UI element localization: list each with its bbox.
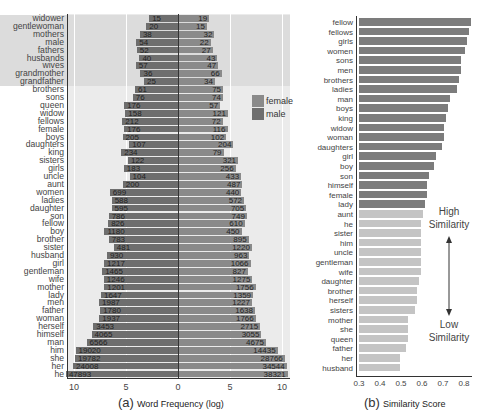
- similarity-bar: [359, 335, 408, 343]
- x-tick-label: 10: [272, 382, 292, 392]
- similarity-bar: [359, 76, 459, 84]
- similarity-bar: [359, 85, 457, 93]
- x-axis-title: (b)Similarity Score: [364, 395, 445, 410]
- gridline: [282, 14, 283, 378]
- similarity-bar: [359, 287, 417, 295]
- similarity-bar: [359, 239, 421, 247]
- legend-label-male: male: [266, 109, 286, 119]
- x-tick-label: 0.5: [392, 379, 410, 388]
- similarity-bar: [359, 114, 446, 122]
- x-tick-label: 5: [116, 382, 136, 392]
- legend-swatch-male: [252, 108, 264, 120]
- similarity-bar: [359, 95, 450, 103]
- y-axis-line: [67, 14, 68, 378]
- similarity-bar: [359, 325, 408, 333]
- x-tick-label: 5: [220, 382, 240, 392]
- similarity-bar: [359, 28, 469, 36]
- similarity-bar: [359, 152, 436, 160]
- word-frequency-chart: widower1519gentlewoman2015mothers3832mal…: [0, 0, 300, 417]
- x-tick-label: 0.3: [350, 379, 368, 388]
- value-label-left: 25: [147, 77, 156, 86]
- high-similarity-annotation: High Similarity: [424, 205, 474, 231]
- similarity-bar: [359, 37, 467, 45]
- x-axis-line: [67, 378, 290, 379]
- center-line: [178, 14, 179, 378]
- category-label: he: [54, 369, 64, 380]
- similarity-bar: [359, 104, 448, 112]
- similarity-bar: [359, 364, 400, 372]
- panel-letter: (b): [364, 395, 380, 410]
- x-tick-label: 0: [168, 382, 188, 392]
- x-tick-label: 0.4: [371, 379, 389, 388]
- similarity-bar: [359, 143, 442, 151]
- x-axis-label: Similarity Score: [383, 399, 446, 409]
- similarity-bar: [359, 258, 421, 266]
- similarity-bar: [359, 200, 425, 208]
- x-axis-label: Word Frequency (log): [137, 399, 224, 409]
- similarity-bar: [359, 172, 429, 180]
- similarity-bar: [359, 162, 434, 170]
- y-axis-line: [356, 16, 357, 376]
- similarity-bar: [359, 296, 417, 304]
- similarity-bar: [359, 124, 444, 132]
- x-axis-title: (a)Word Frequency (log): [118, 395, 224, 410]
- x-axis-line: [356, 376, 472, 377]
- legend-swatch-female: [252, 95, 264, 107]
- value-label-left: 200: [126, 180, 139, 189]
- legend-label-female: female: [266, 96, 293, 106]
- x-tick-label: 10: [64, 382, 84, 392]
- similarity-bar: [359, 210, 423, 218]
- similarity-bar: [359, 56, 461, 64]
- gridline: [74, 14, 75, 378]
- similarity-score-chart: fellowfellowsgirlswomensonsmenbrothersla…: [296, 0, 479, 417]
- similarity-bar: [359, 229, 421, 237]
- similarity-bar: [359, 277, 419, 285]
- similarity-bar: [359, 354, 400, 362]
- similarity-bar: [359, 133, 444, 141]
- similarity-arrow: [444, 236, 454, 316]
- similarity-bar: [359, 18, 471, 26]
- similarity-bar: [359, 66, 461, 74]
- x-tick-label: 0.8: [455, 379, 473, 388]
- similarity-bar: [359, 344, 406, 352]
- similarity-bar: [359, 248, 421, 256]
- similarity-bar: [359, 306, 415, 314]
- x-tick-label: 0.6: [413, 379, 431, 388]
- similarity-bar: [359, 181, 427, 189]
- low-similarity-annotation: Low Similarity: [424, 318, 474, 344]
- x-tick-label: 0.7: [434, 379, 452, 388]
- similarity-bar: [359, 268, 421, 276]
- similarity-bar: [359, 220, 421, 228]
- panel-letter: (a): [118, 395, 134, 410]
- value-label-right: 79: [213, 148, 222, 157]
- similarity-bar: [359, 47, 465, 55]
- category-label: husband: [322, 363, 353, 374]
- similarity-bar: [359, 191, 427, 199]
- similarity-bar: [359, 316, 408, 324]
